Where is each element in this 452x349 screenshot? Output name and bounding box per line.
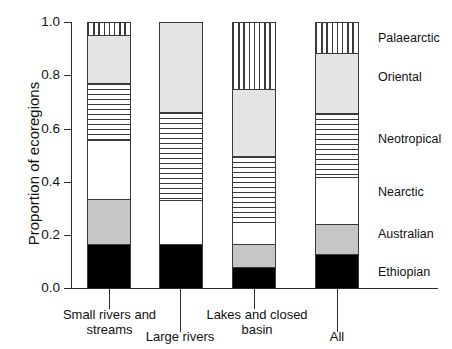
bar-segment-palaearctic: [88, 23, 130, 35]
bar-segment-nearctic: [160, 200, 202, 245]
x-category-label-all: All: [307, 330, 367, 345]
y-tick-label-1.0: 1.0: [14, 14, 60, 29]
x-stalk-lakes: [254, 289, 255, 309]
bar-segment-neotropical: [160, 112, 202, 200]
bar-segment-nearctic: [233, 222, 275, 245]
y-tick-4: [64, 182, 71, 183]
y-tick-label-0.2: 0.2: [14, 227, 60, 242]
bar-segment-australian: [316, 224, 358, 253]
bar-segment-australian: [233, 244, 275, 267]
y-tick-label-0.8: 0.8: [14, 67, 60, 82]
stacked-bar-chart: Proportion of ecoregions 1.0 0.8 0.6 0.4…: [0, 0, 452, 349]
legend-label-ethiopian: Ethiopian: [378, 265, 430, 279]
bar-large-rivers: [159, 22, 203, 288]
y-tick-label-0.6: 0.6: [14, 121, 60, 136]
bar-segment-nearctic: [88, 140, 130, 200]
bar-segment-nearctic: [316, 177, 358, 225]
bar-segment-ethiopian: [316, 254, 358, 288]
bar-segment-australian: [88, 199, 130, 244]
legend-label-nearctic: Nearctic: [378, 185, 424, 199]
bar-segment-ethiopian: [160, 244, 202, 288]
y-axis-line: [71, 22, 72, 289]
bar-segment-oriental: [233, 89, 275, 155]
bar-segment-neotropical: [316, 113, 358, 177]
y-tick-6: [64, 288, 71, 289]
x-category-label-lakes-and-closed-basin: Lakes and closed basin: [192, 308, 322, 337]
y-tick-3: [64, 129, 71, 130]
bar-segment-oriental: [88, 35, 130, 83]
legend-label-palaearctic: Palaearctic: [378, 31, 440, 45]
y-tick-5: [64, 235, 71, 236]
x-stalk-small-rivers: [109, 289, 110, 309]
bar-segment-neotropical: [233, 156, 275, 222]
legend-label-australian: Australian: [378, 227, 434, 241]
bar-segment-neotropical: [88, 83, 130, 140]
y-tick-2: [64, 75, 71, 76]
y-tick-label-0.4: 0.4: [14, 174, 60, 189]
bar-segment-palaearctic: [233, 23, 275, 89]
legend-label-neotropical: Neotropical: [378, 132, 441, 146]
y-tick-label-0.0: 0.0: [14, 280, 60, 295]
bar-segment-palaearctic: [316, 23, 358, 53]
bar-segment-ethiopian: [233, 267, 275, 288]
bar-small-rivers-and-streams: [87, 22, 131, 288]
bar-segment-oriental: [160, 23, 202, 112]
x-stalk-all: [337, 289, 338, 332]
x-stalk-large-rivers: [180, 289, 181, 332]
legend-label-oriental: Oriental: [378, 70, 422, 84]
bar-lakes-and-closed-basin: [232, 22, 276, 288]
bar-all: [315, 22, 359, 288]
bar-segment-oriental: [316, 53, 358, 113]
y-tick-1: [64, 22, 71, 23]
bar-segment-ethiopian: [88, 244, 130, 288]
